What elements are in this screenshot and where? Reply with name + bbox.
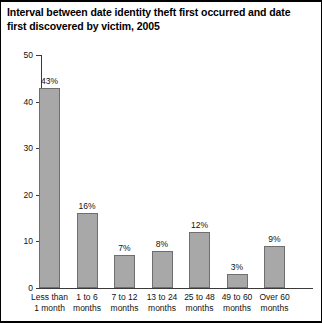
bar bbox=[77, 213, 98, 288]
bar bbox=[39, 88, 60, 288]
chart-figure: Interval between date identity theft fir… bbox=[0, 0, 322, 323]
x-axis-label-line: Over 60 bbox=[252, 292, 297, 303]
bar-value-label: 8% bbox=[143, 240, 182, 249]
bar bbox=[189, 232, 210, 288]
y-axis-tick-label: 0 bbox=[7, 284, 33, 292]
y-axis-tick-label: 40 bbox=[7, 98, 33, 106]
bar bbox=[227, 274, 248, 288]
bar bbox=[264, 246, 285, 288]
bar-value-label: 16% bbox=[68, 202, 107, 211]
y-axis-tick bbox=[36, 55, 41, 56]
x-axis-line bbox=[41, 288, 313, 289]
x-axis-label-line: months bbox=[252, 303, 297, 314]
y-axis-tick-label: 30 bbox=[7, 144, 33, 152]
bar-value-label: 9% bbox=[255, 235, 294, 244]
bar-value-label: 12% bbox=[180, 221, 219, 230]
bar bbox=[152, 251, 173, 288]
bar bbox=[114, 255, 135, 288]
bar-value-label: 43% bbox=[30, 77, 69, 86]
y-axis-tick-label: 10 bbox=[7, 237, 33, 245]
y-axis-tick bbox=[36, 288, 41, 289]
y-axis-tick-label: 50 bbox=[7, 51, 33, 59]
bar-value-label: 3% bbox=[218, 263, 257, 272]
bar-value-label: 7% bbox=[105, 244, 144, 253]
x-axis-category-label: Over 60months bbox=[252, 292, 297, 313]
y-axis-tick-label: 20 bbox=[7, 191, 33, 199]
plot-area: 01020304050 43%16%7%8%12%3%9% Less than1… bbox=[1, 2, 322, 323]
